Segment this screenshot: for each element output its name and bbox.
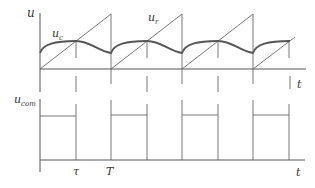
- tau-label: τ: [73, 165, 80, 178]
- ur-label: ur: [148, 11, 159, 26]
- top-y-axis-label: u: [27, 6, 35, 20]
- uc-label: uc: [52, 27, 63, 42]
- top-panel: u uc ur t: [27, 6, 306, 92]
- top-x-axis-label: t: [297, 78, 302, 91]
- period-label: T: [106, 165, 115, 178]
- curve-uc: [40, 41, 290, 53]
- bottom-panel: ucom τ T t: [14, 93, 305, 179]
- bottom-y-axis-label: ucom: [14, 93, 36, 108]
- waveform-diagram: u uc ur t ucom τ T t: [0, 0, 315, 188]
- pulse-train: [40, 100, 289, 160]
- bottom-x-axis-label: t: [296, 166, 301, 179]
